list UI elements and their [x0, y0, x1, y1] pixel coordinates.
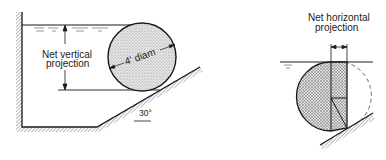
vertical-projection-label-2: projection [46, 58, 89, 69]
horizontal-projection-dimension [331, 44, 347, 62]
water-ripples [34, 28, 108, 31]
horizontal-projection-label-2: projection [315, 22, 358, 33]
submerged-region [297, 62, 348, 131]
ground-hatching [16, 12, 203, 132]
water-ripples-right [284, 65, 292, 68]
right-figure: Net horizontal projection [280, 12, 375, 150]
angle-label: 30° [139, 108, 152, 118]
left-figure: 4' diam Net vertical projection 30° [16, 12, 203, 132]
diagram-canvas: 4' diam Net vertical projection 30° [0, 0, 386, 160]
